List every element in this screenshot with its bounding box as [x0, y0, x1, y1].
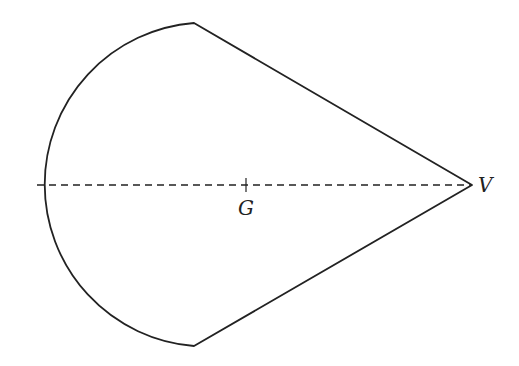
centroid-label: G [238, 196, 254, 220]
vertex-label: V [478, 173, 495, 197]
diagram-canvas: G V [0, 0, 519, 366]
